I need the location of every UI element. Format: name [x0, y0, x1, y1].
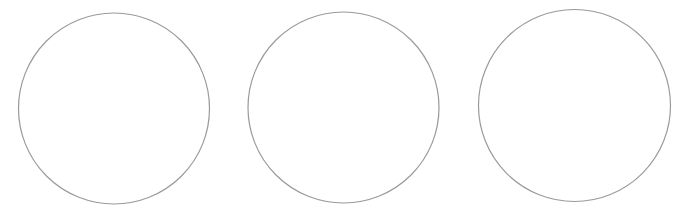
circles-group: [19, 10, 671, 205]
circle-3: [479, 10, 671, 202]
circle-2: [248, 12, 439, 203]
diagram-canvas: [0, 0, 684, 216]
circle-1: [19, 13, 210, 204]
